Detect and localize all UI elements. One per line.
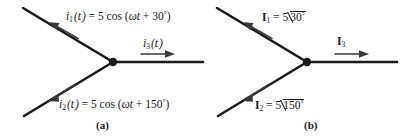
- current-arrow-i1: [50, 22, 79, 38]
- panel-b-wiring-diagram: [208, 0, 416, 138]
- panel-b-phasor-domain: I1 = 5 30° I2 = 5 150° I3 (b): [208, 0, 416, 138]
- label-i3-expression: i3 (t ): [143, 38, 163, 50]
- current-arrow-i3: [141, 50, 175, 58]
- label-i1-expression: i1 (t ) = 5 cos (ωt + 30°): [66, 11, 171, 23]
- current-arrow-I3: [335, 50, 369, 58]
- label-i2-expression: i2 (t ) = 5 cos (ωt + 150°): [59, 99, 169, 111]
- junction-node-dot: [303, 58, 311, 66]
- label-I2-phasor: I2 = 5 150°: [255, 99, 304, 112]
- junction-node-dot: [109, 58, 117, 66]
- label-I1-phasor: I1 = 5 30°: [262, 11, 306, 24]
- caption-panel-a: (a): [96, 119, 109, 131]
- panel-a-time-domain: i1 (t ) = 5 cos (ωt + 30°) i2 (t ) = 5 c…: [0, 0, 208, 138]
- label-I3-phasor: I3: [337, 36, 345, 48]
- figure-root: i1 (t ) = 5 cos (ωt + 30°) i2 (t ) = 5 c…: [0, 0, 416, 138]
- caption-panel-b: (b): [304, 119, 317, 131]
